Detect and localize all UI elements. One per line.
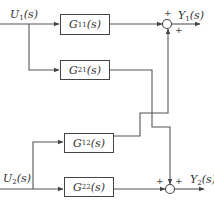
g12-sub: 12: [82, 139, 91, 147]
g22-tail: (s): [91, 181, 105, 194]
block-g21: G21(s): [60, 60, 110, 80]
g11-tail: (s): [87, 18, 101, 31]
g11-main: G: [69, 18, 78, 31]
block-g22: G22(s): [64, 177, 114, 197]
input-label-u1: U1(s): [10, 9, 38, 22]
s1-sign-bottom: +: [175, 26, 183, 35]
summing-junction-2: [166, 185, 175, 194]
g22-sub: 22: [82, 183, 91, 191]
summing-junction-1: [163, 20, 172, 29]
g22-main: G: [73, 181, 82, 194]
block-g12: G12(s): [64, 133, 114, 153]
u1-tail: (s): [24, 8, 38, 21]
output-label-y1: Y1(s): [178, 10, 204, 23]
s2-sign-left: +: [156, 177, 164, 186]
y2-tail: (s): [202, 173, 214, 186]
g12-tail: (s): [91, 137, 105, 150]
s2-sign-top: +: [175, 177, 183, 186]
u1-main: U: [10, 8, 19, 21]
g11-sub: 11: [78, 21, 87, 29]
u2-tail: (s): [17, 172, 31, 185]
block-g11: G11(s): [60, 14, 110, 35]
g21-sub: 21: [78, 66, 87, 74]
u2-main: U: [3, 172, 12, 185]
s1-sign-left: +: [164, 9, 172, 18]
g21-main: G: [69, 64, 78, 77]
g21-tail: (s): [87, 64, 101, 77]
input-label-u2: U2(s): [3, 173, 31, 186]
y1-tail: (s): [190, 9, 204, 22]
g12-main: G: [73, 137, 82, 150]
output-label-y2: Y2(s): [190, 174, 214, 187]
